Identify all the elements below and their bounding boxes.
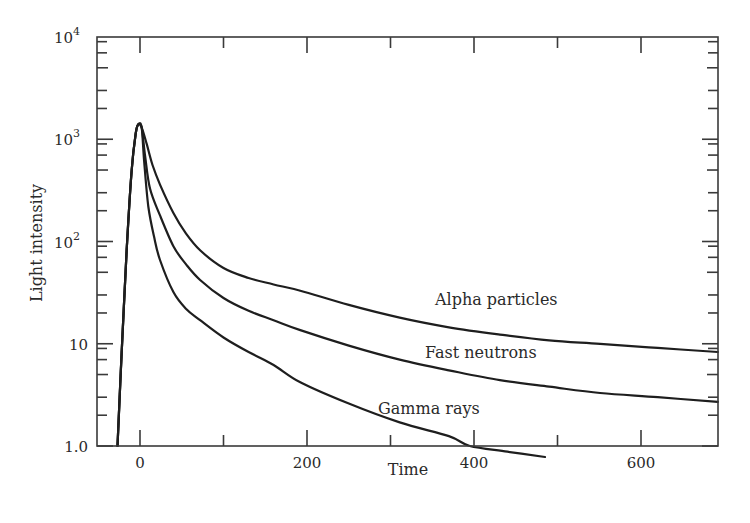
- light-intensity-chart: 1.010102103104 0200400600 Alpha particle…: [0, 0, 750, 523]
- x-tick-label: 400: [460, 454, 489, 472]
- x-tick-label: 0: [135, 454, 145, 472]
- series-labels: Alpha particlesFast neutronsGamma rays: [378, 290, 558, 418]
- curve-alpha-particles: [118, 124, 718, 446]
- y-axis-tick-labels: 1.010102103104: [54, 25, 88, 456]
- y-tick-label: 1.0: [64, 438, 88, 456]
- plot-frame: [97, 37, 718, 446]
- y-tick-label: 104: [54, 25, 80, 47]
- x-axis-title: Time: [388, 460, 428, 479]
- y-tick-label: 102: [54, 230, 80, 252]
- y-tick-label: 103: [54, 127, 80, 149]
- x-tick-label: 200: [293, 454, 322, 472]
- x-tick-label: 600: [627, 454, 656, 472]
- y-axis-ticks: [97, 42, 718, 446]
- series-label-fast-neutrons: Fast neutrons: [425, 343, 537, 362]
- series-label-gamma-rays: Gamma rays: [378, 399, 480, 418]
- series-label-alpha-particles: Alpha particles: [434, 290, 558, 309]
- y-tick-label: 10: [69, 336, 88, 354]
- y-axis-title: Light intensity: [27, 184, 46, 302]
- x-axis-ticks: [140, 37, 641, 446]
- curve-fast-neutrons: [118, 124, 718, 446]
